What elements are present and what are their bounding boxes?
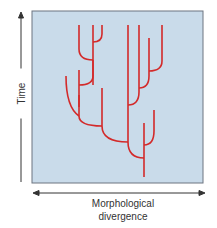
divergence-axis-arrow: [33, 191, 205, 196]
divergence-label-line2: divergence: [60, 211, 186, 224]
time-axis-label: Time: [16, 69, 27, 119]
divergence-axis-label: Morphological divergence: [60, 198, 186, 223]
divergence-label-line1: Morphological: [60, 198, 186, 211]
phylogeny-diagram: [0, 0, 217, 228]
diagram-panel: [32, 11, 203, 183]
